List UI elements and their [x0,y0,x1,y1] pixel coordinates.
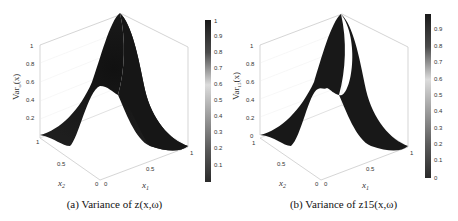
svg-text:0.5: 0.5 [434,92,443,98]
svg-text:0.6: 0.6 [246,79,255,85]
svg-text:0: 0 [95,181,99,187]
svg-text:0.6: 0.6 [26,79,35,85]
svg-text:0.3: 0.3 [434,125,443,131]
svg-text:0.6: 0.6 [214,81,223,87]
svg-text:0.7: 0.7 [434,59,443,65]
svg-text:1: 1 [190,150,194,156]
svg-text:0.5: 0.5 [214,97,223,103]
svg-text:0.8: 0.8 [434,43,443,49]
svg-text:0.2: 0.2 [26,115,35,121]
svg-text:0.9: 0.9 [214,33,223,39]
panel-b: 10.80.6 0.40.20 1 0.500 0.51 x2 x1 Var15… [229,0,458,221]
svg-text:0: 0 [324,181,328,187]
svg-text:0.6: 0.6 [434,76,443,82]
svg-text:1: 1 [250,43,254,49]
svg-text:0.8: 0.8 [214,49,223,55]
colorbar-ticks-a: 10.90.8 0.70.60.5 0.40.30.2 0.1 [214,18,223,168]
svg-text:0.4: 0.4 [214,113,223,119]
svg-text:0.5: 0.5 [57,161,66,167]
z-axis-label: Varω(x) [11,74,22,100]
svg-text:0.1: 0.1 [214,162,223,168]
svg-text:0.8: 0.8 [246,61,255,67]
svg-text:0.2: 0.2 [214,145,223,151]
svg-text:0.1: 0.1 [434,157,443,163]
svg-text:0: 0 [434,175,438,181]
x2-axis-label: x2 [57,178,65,189]
z-axis-label: Var15(x) [231,72,242,100]
variance-surface-a [40,13,188,151]
svg-text:0.5: 0.5 [146,166,155,172]
svg-text:0.7: 0.7 [214,65,223,71]
svg-text:0.5: 0.5 [366,166,375,172]
svg-text:1: 1 [30,43,34,49]
svg-text:1: 1 [252,140,256,146]
svg-text:1: 1 [36,139,40,145]
caption-a: (a) Variance of z(x,ω) [0,198,229,210]
caption-b: (b) Variance of z15(x,ω) [229,198,458,210]
svg-text:0.5: 0.5 [277,161,286,167]
svg-text:0.3: 0.3 [214,129,223,135]
panel-a: 10.80.6 0.40.21 0.500 0.51 x2 x1 Varω(x)… [0,0,229,221]
svg-text:1: 1 [410,150,414,156]
svg-text:1: 1 [214,18,218,24]
x1-axis-label: x1 [141,180,149,191]
svg-text:0: 0 [315,181,319,187]
svg-text:0: 0 [250,133,254,139]
x2-axis-label: x2 [278,178,286,189]
surface-plot-b: 10.80.6 0.40.20 1 0.500 0.51 x2 x1 Var15… [229,0,458,200]
svg-text:0.2: 0.2 [246,115,255,121]
surface-plot-a: 10.80.6 0.40.21 0.500 0.51 x2 x1 Varω(x)… [0,0,229,200]
svg-text:0.4: 0.4 [246,97,255,103]
svg-text:0.4: 0.4 [434,108,443,114]
svg-text:0: 0 [104,181,108,187]
variance-surface-b [260,14,408,151]
svg-text:0.9: 0.9 [434,26,443,32]
svg-text:0.8: 0.8 [26,61,35,67]
x1-axis-label: x1 [361,180,369,191]
svg-text:0.2: 0.2 [434,141,443,147]
svg-text:0.4: 0.4 [26,97,35,103]
colorbar-b [425,14,431,178]
colorbar-a [205,20,211,182]
colorbar-ticks-b: 0.90.80.7 0.60.50.4 0.30.20.1 0 [434,26,443,181]
